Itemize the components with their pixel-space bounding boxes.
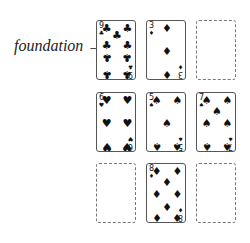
spade-suit-icon: ♠ [172, 141, 183, 152]
heart-suit-icon: ♥ [101, 141, 112, 152]
club-suit-icon: ♣ [101, 39, 112, 50]
diamond-suit-icon: ♦ [162, 46, 173, 57]
heart-suit-icon: ♥ [122, 118, 133, 129]
empty-card-slot[interactable] [196, 20, 236, 80]
diamond-suit-icon: ♦ [172, 189, 183, 200]
spade-suit-icon: ♠ [151, 141, 162, 152]
club-suit-icon: ♣ [101, 22, 112, 33]
heart-suit-icon: ♥ [101, 94, 112, 105]
diamond-suit-icon: ♦ [151, 189, 162, 200]
spade-suit-icon: ♠ [212, 106, 223, 117]
empty-card-slot[interactable] [196, 163, 236, 223]
diamond-suit-icon: ♦ [172, 212, 183, 223]
diamond-suit-icon: ♦ [162, 69, 173, 80]
spade-suit-icon: ♠ [222, 118, 233, 129]
card-pips: ♦♦♦♦♦♦♦♦ [154, 168, 180, 220]
foundation-label: foundation → [14, 37, 103, 55]
club-suit-icon: ♣ [101, 69, 112, 80]
card-5-of-spades[interactable]: 5♠5♠♠♠♠♠♠ [146, 92, 186, 152]
card-pips: ♦♦♦ [154, 25, 180, 77]
diamond-suit-icon: ♦ [151, 165, 162, 176]
spade-suit-icon: ♠ [172, 94, 183, 105]
club-suit-icon: ♣ [122, 39, 133, 50]
heart-suit-icon: ♥ [122, 94, 133, 105]
diamond-suit-icon: ♦ [162, 177, 173, 188]
spade-suit-icon: ♠ [222, 94, 233, 105]
spade-suit-icon: ♠ [222, 141, 233, 152]
card-pips: ♠♠♠♠♠ [154, 97, 180, 149]
card-pips: ♣♣♣♣♣♣♣♣♣ [104, 25, 130, 77]
spade-suit-icon: ♠ [151, 94, 162, 105]
diamond-suit-icon: ♦ [162, 200, 173, 211]
card-3-of-diamonds[interactable]: 3♦3♦♦♦♦ [146, 20, 186, 80]
diamond-suit-icon: ♦ [162, 22, 173, 33]
spade-suit-icon: ♠ [162, 118, 173, 129]
card-pips: ♠♠♠♠♠♠♠ [204, 97, 230, 149]
spade-suit-icon: ♠ [201, 118, 212, 129]
club-suit-icon: ♣ [122, 52, 133, 63]
card-7-of-spades[interactable]: 7♠7♠♠♠♠♠♠♠♠ [196, 92, 236, 152]
card-6-of-hearts[interactable]: 6♥6♥♥♥♥♥♥♥ [96, 92, 136, 152]
card-pips: ♥♥♥♥♥♥ [104, 97, 130, 149]
card-8-of-diamonds[interactable]: 8♦8♦♦♦♦♦♦♦♦♦ [146, 163, 186, 223]
club-suit-icon: ♣ [122, 22, 133, 33]
spade-suit-icon: ♠ [201, 94, 212, 105]
empty-card-slot[interactable] [96, 163, 136, 223]
diamond-suit-icon: ♦ [151, 212, 162, 223]
diamond-suit-icon: ♦ [172, 165, 183, 176]
card-9-of-clubs[interactable]: 9♣9♣♣♣♣♣♣♣♣♣♣ [96, 20, 136, 80]
heart-suit-icon: ♥ [122, 141, 133, 152]
club-suit-icon: ♣ [112, 30, 123, 41]
club-suit-icon: ♣ [122, 69, 133, 80]
club-suit-icon: ♣ [101, 52, 112, 63]
heart-suit-icon: ♥ [101, 118, 112, 129]
spade-suit-icon: ♠ [201, 141, 212, 152]
